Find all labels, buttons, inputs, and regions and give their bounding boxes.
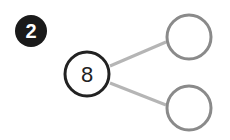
problem-number: 2 bbox=[25, 20, 36, 42]
number-bond-diagram: 2 8 bbox=[0, 0, 230, 140]
whole-value: 8 bbox=[81, 62, 93, 87]
part-circle-bottom[interactable] bbox=[167, 86, 211, 130]
problem-number-badge: 2 bbox=[15, 15, 47, 47]
connector-line-top bbox=[110, 42, 166, 66]
part-circle-top[interactable] bbox=[167, 15, 211, 59]
whole-circle: 8 bbox=[65, 52, 109, 96]
connector-line-bottom bbox=[110, 83, 166, 105]
